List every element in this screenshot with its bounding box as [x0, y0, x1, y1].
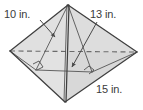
dimension-label-lateral-edge: 13 in. — [90, 9, 116, 20]
dimension-label-slant-height: 10 in. — [4, 9, 30, 20]
dimension-label-base-edge: 15 in. — [96, 84, 122, 95]
pyramid-figure: 10 in. 13 in. 15 in. — [0, 0, 143, 110]
